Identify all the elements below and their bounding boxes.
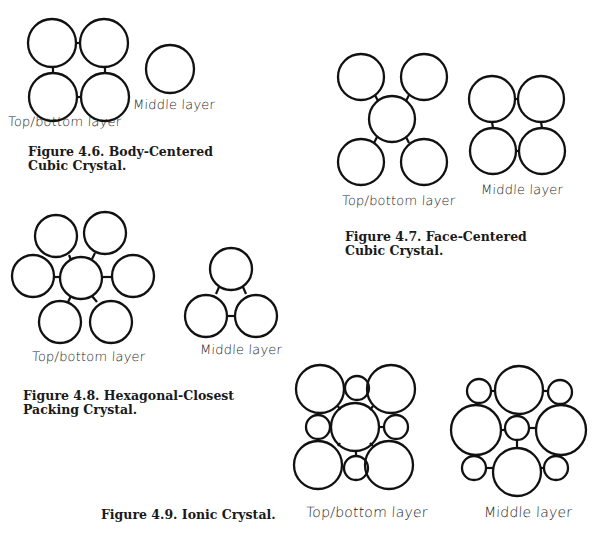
bond-line (243, 287, 246, 294)
atom-circle (536, 405, 586, 455)
fig49-middle-layer (451, 366, 586, 496)
atom-circle (469, 76, 515, 122)
atom-circle (493, 448, 541, 496)
small-atom-circle (462, 456, 486, 480)
atom-circle (338, 139, 384, 185)
atom-circle (28, 19, 76, 67)
fig48-middle-label: Middle layer (200, 342, 283, 357)
atom-circle (495, 366, 543, 414)
fig47-caption-line1: Figure 4.7. Face-Centered (345, 230, 527, 244)
atom-circle (296, 365, 344, 413)
atom-circle (60, 257, 102, 299)
fig49-top-layer (294, 365, 415, 489)
fig48-caption-line2: Packing Crystal. (23, 403, 137, 417)
atom-circle (401, 54, 447, 100)
fig46-caption-line2: Cubic Crystal. (28, 159, 126, 173)
atom-circle (369, 96, 415, 142)
bond-line (92, 296, 97, 302)
small-atom-circle (548, 380, 572, 404)
fig47-middle-label: Middle layer (481, 182, 564, 197)
fig48-top-label: Top/bottom layer (32, 349, 146, 364)
bond-line (92, 253, 95, 259)
atom-circle (470, 128, 516, 174)
atom-circle (35, 215, 77, 257)
atom-circle (338, 54, 384, 100)
fig46-middle-layer (146, 45, 194, 93)
atom-circle (367, 365, 415, 413)
atom-circle (90, 301, 132, 343)
atom-circle (146, 45, 194, 93)
small-atom-circle (505, 416, 529, 440)
crystal-diagrams-canvas (0, 0, 593, 550)
fig47-top-label: Top/bottom layer (342, 193, 456, 208)
small-atom-circle (467, 379, 491, 403)
atom-circle (80, 19, 128, 67)
atom-circle (365, 441, 413, 489)
fig48-middle-layer (185, 248, 277, 337)
bond-line (216, 287, 219, 294)
fig49-middle-label: Middle layer (484, 504, 573, 520)
atom-circle (518, 76, 564, 122)
atom-circle (39, 301, 81, 343)
atom-circle (331, 403, 379, 451)
atom-circle (519, 128, 565, 174)
fig47-top-layer (338, 54, 447, 185)
small-atom-circle (345, 376, 369, 400)
atom-circle (210, 248, 252, 290)
atom-circle (235, 295, 277, 337)
atom-circle (112, 255, 154, 297)
atom-circle (12, 255, 54, 297)
fig47-middle-layer (469, 76, 565, 174)
fig46-middle-label: Middle layer (133, 97, 216, 112)
atom-circle (294, 441, 342, 489)
fig46-caption-line1: Figure 4.6. Body-Centered (28, 145, 213, 159)
small-atom-circle (384, 415, 408, 439)
fig47-caption-line2: Cubic Crystal. (345, 244, 443, 258)
fig46-top-layer (28, 19, 129, 121)
fig49-top-label: Top/bottom layer (306, 504, 429, 520)
small-atom-circle (306, 415, 330, 439)
small-atom-circle (544, 456, 568, 480)
fig48-top-layer (12, 212, 154, 343)
atom-circle (84, 212, 126, 254)
atom-circle (185, 295, 227, 337)
atom-circle (451, 405, 501, 455)
fig48-caption-line1: Figure 4.8. Hexagonal-Closest (23, 389, 234, 403)
fig46-top-label: Top/bottom layer (8, 114, 122, 129)
atom-circle (401, 139, 447, 185)
fig49-caption: Figure 4.9. Ionic Crystal. (101, 508, 276, 522)
